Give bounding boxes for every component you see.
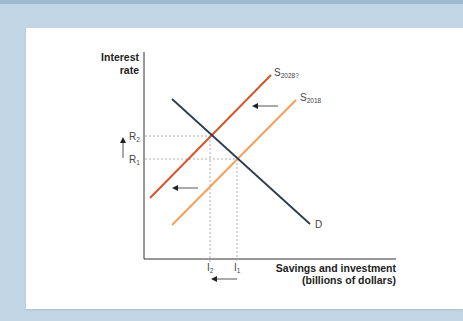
demand-label: D [315,219,322,230]
r1-label: R1 [129,154,140,166]
loanable-funds-diagram: Interest rate Savings and investment (bi… [0,0,463,321]
r2-label: R2 [129,131,140,143]
i1-label: I1 [234,262,241,274]
supply-curve-2028 [150,75,271,198]
supply-2028-label: S2028? [274,67,299,79]
x-axis-title-line2: (billions of dollars) [302,274,396,286]
i2-label: I2 [207,262,214,274]
supply-curve-2018 [172,100,296,225]
y-axis-title-line2: rate [120,64,139,76]
y-axis-title-line1: Interest [101,51,139,63]
supply-2018-label: S2018 [300,92,322,104]
x-axis-title-line1: Savings and investment [276,262,397,274]
